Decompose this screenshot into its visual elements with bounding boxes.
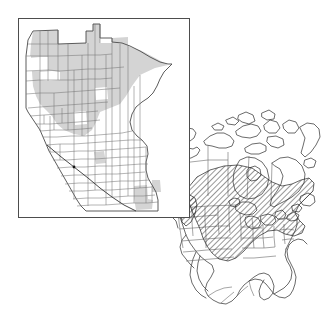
minnesota-county-map: [0, 0, 329, 327]
figure-canvas: Counties of Minnesota; northern and east…: [0, 0, 329, 327]
minnesota-svg: [0, 0, 329, 327]
